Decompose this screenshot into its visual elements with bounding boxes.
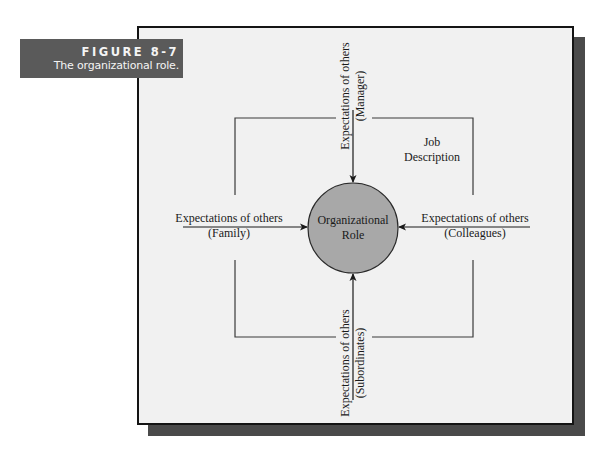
colleagues-expectations-label: Expectations of others (Colleagues) — [410, 211, 540, 241]
job-description-label: Job Description — [382, 135, 482, 165]
family-expectations-label: Expectations of others (Family) — [164, 211, 294, 241]
manager-expectations-label: Expectations of others (Manager) — [338, 31, 368, 161]
subordinates-expectations-label: Expectations of others (Subordinates) — [338, 298, 368, 428]
center-node-label: Organizational Role — [308, 213, 398, 243]
